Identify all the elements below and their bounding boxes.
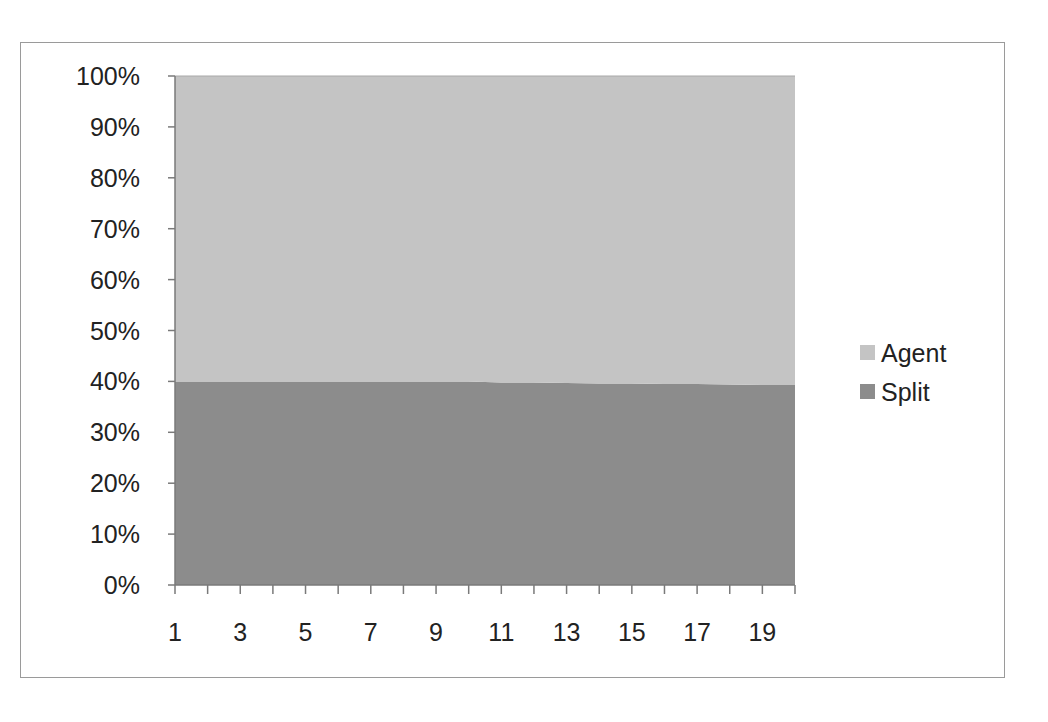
- legend-label-agent: Agent: [881, 339, 946, 367]
- x-tick-label: 7: [364, 618, 378, 646]
- x-tick-label: 15: [618, 618, 646, 646]
- y-tick-label: 50%: [90, 317, 140, 345]
- y-tick-label: 40%: [90, 367, 140, 395]
- y-tick-label: 20%: [90, 469, 140, 497]
- stacked-area-chart: 0%10%20%30%40%50%60%70%80%90%100% 135791…: [0, 0, 1048, 722]
- x-tick-label: 5: [299, 618, 313, 646]
- area-agent: [175, 76, 795, 385]
- x-tick-label: 3: [233, 618, 247, 646]
- legend-label-split: Split: [881, 378, 930, 406]
- y-tick-label: 30%: [90, 418, 140, 446]
- x-tick-label: 19: [748, 618, 776, 646]
- x-tick-label: 9: [429, 618, 443, 646]
- x-tick-label: 13: [553, 618, 581, 646]
- plot-area: [175, 76, 795, 585]
- y-tick-label: 70%: [90, 215, 140, 243]
- legend-swatch-split: [860, 384, 875, 399]
- y-tick-label: 60%: [90, 266, 140, 294]
- legend: Agent Split: [860, 339, 946, 406]
- area-split: [175, 381, 795, 585]
- x-axis: 135791113151719: [168, 585, 795, 646]
- y-tick-label: 80%: [90, 164, 140, 192]
- x-tick-label: 17: [683, 618, 711, 646]
- y-tick-label: 90%: [90, 113, 140, 141]
- legend-swatch-agent: [860, 345, 875, 360]
- x-tick-label: 1: [168, 618, 182, 646]
- y-tick-label: 0%: [104, 571, 140, 599]
- y-tick-label: 10%: [90, 520, 140, 548]
- y-axis: 0%10%20%30%40%50%60%70%80%90%100%: [76, 62, 175, 599]
- x-tick-label: 11: [488, 618, 514, 646]
- y-tick-label: 100%: [76, 62, 140, 90]
